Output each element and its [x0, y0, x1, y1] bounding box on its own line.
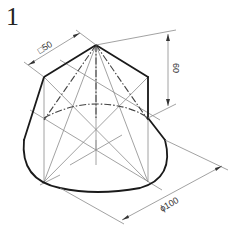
dimension-diameter-100: ϕ100 [60, 140, 228, 224]
isometric-drawing: □50 60 ϕ100 [0, 0, 244, 244]
height-label: 60 [171, 63, 181, 73]
diameter-label: ϕ100 [158, 195, 180, 214]
square-side-label: □50 [36, 39, 54, 56]
dimension-square-50: □50 [24, 30, 96, 77]
